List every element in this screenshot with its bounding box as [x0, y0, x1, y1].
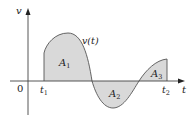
t2-label: t2 [162, 84, 170, 97]
x-axis-arrow-icon [178, 79, 185, 84]
area-under-curve-diagram: v t 0 v(t) t1 t2 A1 A2 A3 [0, 0, 193, 118]
x-axis-label: t [182, 84, 187, 95]
origin-label: 0 [17, 83, 23, 94]
t1-label: t1 [40, 84, 48, 97]
curve-label: v(t) [82, 35, 99, 46]
y-axis-label: v [16, 5, 22, 16]
y-axis-arrow-icon [26, 8, 31, 15]
